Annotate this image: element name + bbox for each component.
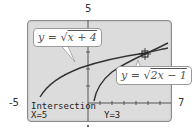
axis-dot [87,125,89,127]
callout-sqrt-2x-minus-1: y = √2x − 1 [116,66,192,85]
intersection-marker-icon [139,48,151,60]
plot-area [0,0,196,128]
status-x-readout: X=5 [31,110,47,120]
callout-sqrt-x-plus-4: y = √x + 4 [33,28,102,47]
status-y-readout: Y=3 [104,110,120,120]
